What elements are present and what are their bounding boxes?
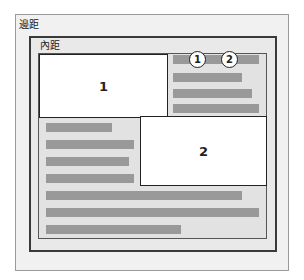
float-box-1-label: 1 bbox=[99, 79, 108, 94]
margin-label: 邊距 bbox=[19, 19, 39, 31]
text-line bbox=[46, 123, 112, 132]
callout-1: 1 bbox=[189, 51, 206, 68]
text-line bbox=[46, 157, 129, 166]
text-line bbox=[173, 73, 242, 82]
text-line bbox=[173, 55, 259, 64]
float-box-2-label: 2 bbox=[199, 144, 208, 159]
callout-1-label: 1 bbox=[194, 54, 201, 65]
text-line bbox=[46, 191, 242, 200]
callout-2: 2 bbox=[221, 51, 238, 68]
callout-2-label: 2 bbox=[226, 54, 233, 65]
text-line bbox=[173, 89, 252, 98]
padding-label: 內距 bbox=[40, 40, 60, 52]
float-box-1: 1 bbox=[39, 54, 168, 118]
text-line bbox=[46, 174, 134, 183]
text-line bbox=[46, 140, 134, 149]
float-box-2: 2 bbox=[140, 116, 267, 186]
text-line bbox=[46, 225, 181, 234]
text-line bbox=[173, 104, 259, 113]
text-line bbox=[46, 208, 259, 217]
